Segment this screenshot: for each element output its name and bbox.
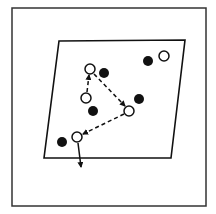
diagram-canvas bbox=[0, 0, 216, 214]
open-circle bbox=[85, 64, 95, 74]
filled-circle bbox=[99, 68, 109, 78]
filled-circle bbox=[88, 106, 98, 116]
filled-circle bbox=[134, 94, 144, 104]
open-circle bbox=[159, 51, 169, 61]
filled-circle bbox=[143, 56, 153, 66]
filled-circle bbox=[57, 137, 67, 147]
open-circle bbox=[81, 93, 91, 103]
open-circle bbox=[72, 132, 82, 142]
open-circle bbox=[124, 106, 134, 116]
particle-path-diagram bbox=[0, 0, 216, 214]
